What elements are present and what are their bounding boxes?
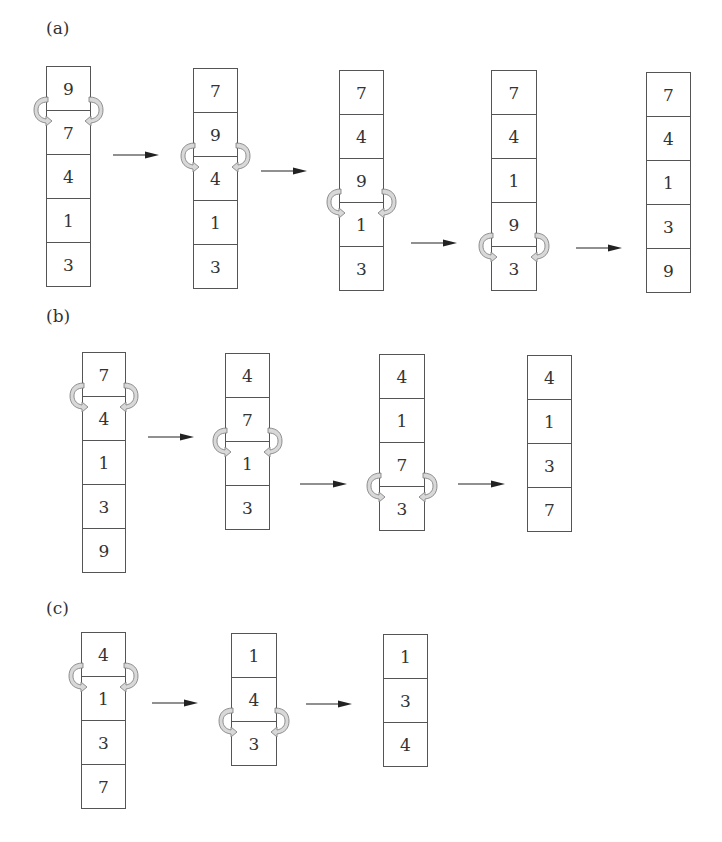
array-cell: 7: [194, 69, 237, 113]
array-cell: 1: [47, 199, 90, 243]
swap-arrow-left-icon: [67, 659, 89, 693]
array-cell: 3: [384, 679, 427, 723]
array-column: 143: [231, 633, 277, 766]
array-cell: 1: [492, 159, 536, 203]
array-cell: 1: [232, 634, 276, 678]
array-column: 79413: [193, 68, 238, 289]
swap-arrow-left-icon: [68, 379, 90, 413]
swap-arrow-left-icon: [217, 704, 239, 738]
swap-arrow-left-icon: [325, 185, 347, 219]
array-cell: 7: [647, 73, 690, 117]
swap-arrow-left-icon: [32, 93, 54, 127]
swap-arrow-right-icon: [262, 424, 284, 458]
array-cell: 7: [82, 765, 125, 809]
array-cell: 3: [83, 485, 125, 529]
swap-arrow-right-icon: [230, 139, 252, 173]
array-cell: 3: [528, 444, 571, 488]
swap-arrow-right-icon: [417, 469, 439, 503]
array-cell: 4: [492, 115, 536, 159]
array-column: 74913: [339, 70, 384, 291]
swap-arrow-right-icon: [118, 379, 140, 413]
right-arrow-icon: [576, 243, 622, 253]
array-cell: 1: [528, 400, 571, 444]
swap-arrow-right-icon: [269, 704, 291, 738]
panel-label: (a): [46, 18, 69, 38]
array-column: 134: [383, 634, 428, 767]
swap-arrow-right-icon: [376, 185, 398, 219]
array-cell: 7: [340, 71, 383, 115]
array-cell: 9: [83, 529, 125, 573]
array-cell: 3: [82, 721, 125, 765]
array-cell: 4: [380, 355, 424, 399]
array-cell: 7: [492, 71, 536, 115]
array-cell: 9: [647, 249, 690, 293]
swap-arrow-right-icon: [529, 229, 551, 263]
right-arrow-icon: [152, 698, 198, 708]
array-column: 74139: [646, 72, 691, 293]
right-arrow-icon: [113, 150, 159, 160]
panel-label: (c): [46, 598, 69, 618]
array-cell: 4: [340, 115, 383, 159]
array-cell: 4: [647, 117, 690, 161]
array-cell: 1: [83, 441, 125, 485]
array-cell: 1: [194, 201, 237, 245]
array-cell: 3: [340, 247, 383, 291]
swap-arrow-right-icon: [118, 659, 140, 693]
array-cell: 1: [380, 399, 424, 443]
array-cell: 3: [226, 486, 269, 530]
right-arrow-icon: [300, 479, 347, 489]
right-arrow-icon: [458, 479, 505, 489]
array-cell: 3: [194, 245, 237, 289]
swap-arrow-left-icon: [365, 469, 387, 503]
right-arrow-icon: [148, 432, 194, 442]
array-cell: 4: [226, 354, 269, 398]
array-cell: 3: [47, 243, 90, 287]
swap-arrow-left-icon: [477, 229, 499, 263]
array-cell: 4: [528, 356, 571, 400]
array-cell: 3: [647, 205, 690, 249]
swap-arrow-left-icon: [179, 139, 201, 173]
array-column: 4173: [379, 354, 425, 531]
array-cell: 1: [384, 635, 427, 679]
swap-arrow-left-icon: [211, 424, 233, 458]
array-cell: 4: [47, 155, 90, 199]
array-cell: 4: [384, 723, 427, 767]
array-cell: 7: [528, 488, 571, 532]
right-arrow-icon: [411, 238, 457, 248]
right-arrow-icon: [261, 166, 307, 176]
right-arrow-icon: [306, 699, 352, 709]
array-cell: 1: [647, 161, 690, 205]
panel-label: (b): [46, 306, 70, 326]
array-column: 4137: [527, 355, 572, 532]
swap-arrow-right-icon: [83, 93, 105, 127]
